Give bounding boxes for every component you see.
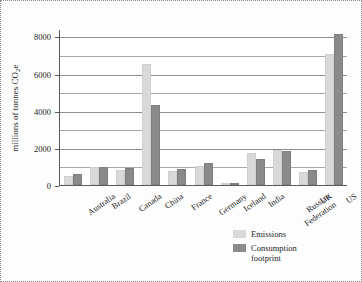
chart-legend: EmissionsConsumption footprint [233,229,297,267]
plot-area: millions of tonnes CO2e [59,30,347,186]
x-axis-tick-label: US [344,191,359,205]
bar-emissions [116,170,125,185]
co2-subscript: 2 [14,68,22,72]
legend-swatch-emissions [233,230,246,238]
bar-group [295,30,321,185]
bar-consumption-footprint [99,167,108,185]
bar-emissions [195,166,204,185]
bar-emissions [273,150,282,185]
bar-group [60,30,86,185]
x-axis-tick-label: Canada [137,191,164,214]
bar-emissions [247,153,256,186]
bar-emissions [64,176,73,185]
y-axis-title: millions of tonnes CO2e [10,33,23,183]
bar-group [112,30,138,185]
x-axis-tick-label: France [189,191,214,212]
legend-item: Consumption footprint [233,243,297,263]
bar-group [86,30,112,185]
bar-consumption-footprint [73,174,82,185]
bar-groups [60,30,347,185]
bar-emissions [299,172,308,185]
bar-emissions [90,167,99,185]
bar-consumption-footprint [230,183,239,185]
bar-consumption-footprint [256,159,265,185]
bar-emissions [221,183,230,185]
bar-consumption-footprint [151,105,160,185]
bar-group [138,30,164,185]
legend-swatch-consumption-footprint [233,244,246,252]
bar-group [190,30,216,185]
bar-consumption-footprint [334,34,343,185]
bar-consumption-footprint [204,163,213,185]
x-axis-tick-label: India [267,191,287,209]
bar-group [321,30,347,185]
bar-consumption-footprint [177,169,186,185]
bar-consumption-footprint [308,170,317,185]
bar-group [243,30,269,185]
legend-label: Consumption footprint [251,243,297,263]
chart-figure: 02000400060008000 millions of tonnes CO2… [0,0,362,282]
x-axis-tick-label: China [162,191,184,211]
legend-label: Emissions [251,229,286,239]
bar-group [217,30,243,185]
bar-consumption-footprint [282,151,291,185]
legend-item: Emissions [233,229,297,239]
bar-emissions [142,64,151,185]
bar-group [164,30,190,185]
bar-emissions [325,54,334,185]
bar-emissions [168,171,177,185]
bar-group [269,30,295,185]
bar-consumption-footprint [125,168,134,185]
x-axis-labels: AustraliaBrazilCanadaChinaFranceGermanyI… [59,187,347,257]
